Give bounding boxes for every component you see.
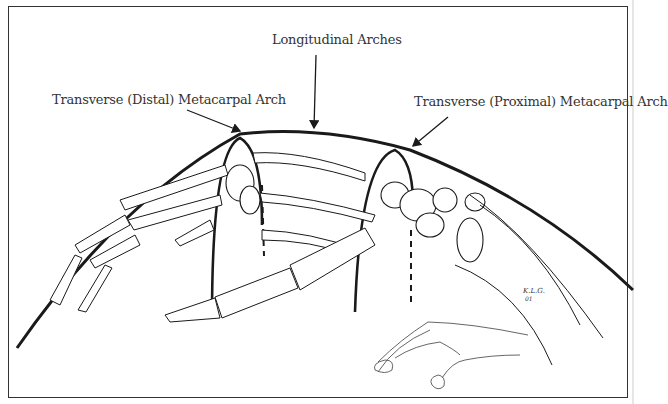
hand-sketch: [374, 322, 528, 389]
svg-text:01: 01: [525, 295, 533, 302]
artist-signature: K.L.G.: [522, 287, 545, 295]
